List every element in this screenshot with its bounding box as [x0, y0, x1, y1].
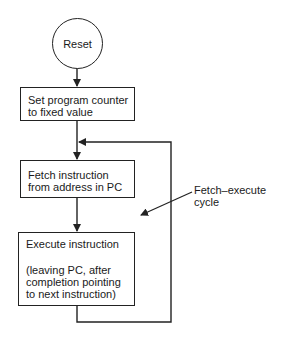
reset-node: Reset [52, 18, 103, 69]
execute-note-line-3: to next instruction) [26, 288, 134, 300]
execute-instruction-node: Execute instruction (leaving PC, after c… [18, 232, 135, 306]
annotation-line-1: Fetch–execute [194, 184, 266, 196]
fetch-line-2: from address in PC [28, 181, 134, 193]
set-pc-line-2: to fixed value [28, 106, 134, 118]
fetch-line-1: Fetch instruction [28, 169, 134, 181]
execute-note-line-2: completion pointing [26, 276, 134, 288]
set-program-counter-node: Set program counter to fixed value [20, 87, 135, 121]
execute-spacer [26, 250, 134, 264]
set-pc-line-1: Set program counter [28, 94, 134, 106]
fetch-execute-cycle-annotation: Fetch–execute cycle [194, 184, 266, 208]
fetch-instruction-node: Fetch instruction from address in PC [20, 160, 135, 198]
execute-title: Execute instruction [26, 238, 134, 250]
annotation-pointer-arrow [141, 192, 192, 215]
reset-label: Reset [63, 38, 92, 50]
annotation-line-2: cycle [194, 196, 266, 208]
execute-note-line-1: (leaving PC, after [26, 264, 134, 276]
